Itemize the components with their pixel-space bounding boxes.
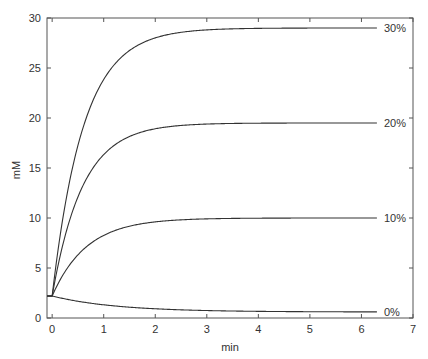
- y-tick-label: 10: [29, 212, 41, 224]
- y-tick-label: 30: [29, 12, 41, 24]
- series-label-10pct: 10%: [384, 212, 406, 224]
- x-tick-label: 4: [255, 323, 261, 335]
- series-lines: [47, 28, 377, 312]
- x-tick-label: 7: [410, 323, 416, 335]
- x-tick-label: 0: [49, 323, 55, 335]
- series-label-20pct: 20%: [384, 117, 406, 129]
- y-tick-label: 25: [29, 62, 41, 74]
- y-axis: 051015202530: [29, 12, 413, 324]
- line-chart: 01234567 051015202530 30%20%10%0% min mM: [0, 0, 428, 359]
- y-tick-label: 20: [29, 112, 41, 124]
- plot-frame: [47, 18, 413, 318]
- x-tick-label: 3: [204, 323, 210, 335]
- plot-border: [47, 18, 413, 318]
- x-axis-label: min: [221, 341, 239, 353]
- x-tick-label: 1: [101, 323, 107, 335]
- x-tick-label: 5: [307, 323, 313, 335]
- y-tick-label: 15: [29, 162, 41, 174]
- series-line-20pct: [47, 123, 377, 296]
- y-tick-label: 5: [35, 262, 41, 274]
- series-line-30pct: [47, 28, 377, 296]
- y-axis-label: mM: [10, 161, 22, 179]
- x-axis: 01234567: [49, 18, 416, 335]
- x-tick-label: 2: [152, 323, 158, 335]
- series-labels: 30%20%10%0%: [384, 22, 406, 318]
- series-line-10pct: [47, 218, 377, 296]
- series-line-0pct: [47, 296, 377, 312]
- x-tick-label: 6: [358, 323, 364, 335]
- series-label-0pct: 0%: [384, 306, 400, 318]
- y-tick-label: 0: [35, 312, 41, 324]
- series-label-30pct: 30%: [384, 22, 406, 34]
